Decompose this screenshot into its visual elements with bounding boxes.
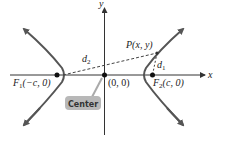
x-axis-label: x: [207, 69, 213, 80]
center-coords-label: (0, 0): [108, 77, 130, 89]
hyperbola-left-branch-lower-arrow: [24, 108, 40, 125]
d2-label: d2: [82, 53, 91, 66]
hyperbola-right-branch-lower-arrow: [167, 108, 183, 125]
focus-f1-point: [55, 73, 60, 78]
y-axis-label: y: [98, 0, 104, 9]
focus-f1-label: F1(−c, 0): [12, 77, 51, 90]
d2-segment: [63, 53, 157, 75]
point-p: [155, 51, 158, 54]
focus-f2-label: F2(c, 0): [152, 77, 184, 90]
hyperbola-diagram: x y F1(−c, 0) F2(c, 0) (0, 0) P(x, y) d2…: [0, 0, 225, 144]
point-p-label: P(x, y): [125, 39, 153, 51]
center-callout-leader: [92, 78, 102, 97]
center-callout-label: Center: [68, 100, 98, 109]
d1-label: d1: [157, 59, 166, 72]
center-point: [102, 73, 107, 78]
